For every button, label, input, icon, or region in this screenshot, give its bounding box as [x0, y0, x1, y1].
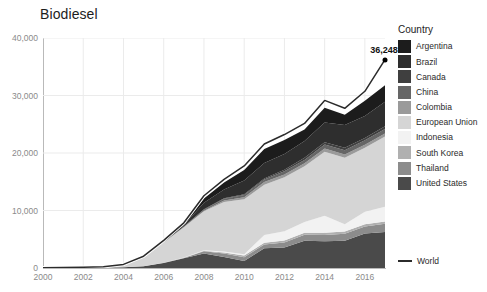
legend-item[interactable]: Thailand: [398, 161, 487, 176]
stacked-area-svg: [43, 38, 385, 268]
y-tick-label: 40,000: [12, 33, 38, 43]
legend-swatch-icon: [398, 116, 411, 129]
y-tick-label: 10,000: [12, 206, 38, 216]
legend-world-item[interactable]: World: [398, 256, 439, 266]
world-line-icon: [398, 260, 412, 262]
y-axis-labels: 010,00020,00030,00040,000: [0, 0, 38, 292]
legend-item[interactable]: Argentina: [398, 39, 487, 54]
x-tick-label: 2016: [355, 272, 374, 282]
legend-world-label: World: [417, 256, 439, 266]
legend-item[interactable]: Brazil: [398, 54, 487, 69]
x-tick-label: 2004: [114, 272, 133, 282]
legend-title: Country: [398, 24, 487, 35]
legend-swatch-icon: [398, 131, 411, 144]
legend-item-label: South Korea: [416, 149, 463, 158]
legend-items: ArgentinaBrazilCanadaChinaColombiaEurope…: [398, 39, 487, 191]
legend-item-label: Colombia: [416, 103, 452, 112]
legend-swatch-icon: [398, 55, 411, 68]
x-tick-label: 2014: [315, 272, 334, 282]
legend-swatch-icon: [398, 101, 411, 114]
legend-item-label: European Union: [416, 118, 477, 127]
chart-root: Biodiesel 010,00020,00030,00040,000 2000…: [0, 0, 487, 292]
legend-swatch-icon: [398, 40, 411, 53]
x-axis-line: [43, 268, 386, 269]
legend-item-label: China: [416, 88, 438, 97]
legend-item-label: Argentina: [416, 42, 452, 51]
x-tick-label: 2010: [235, 272, 254, 282]
y-tick-label: 30,000: [12, 91, 38, 101]
x-tick-label: 2006: [154, 272, 173, 282]
x-tick-label: 2000: [34, 272, 53, 282]
legend-swatch-icon: [398, 177, 411, 190]
legend-item[interactable]: Colombia: [398, 100, 487, 115]
legend: Country ArgentinaBrazilCanadaChinaColomb…: [398, 24, 487, 191]
legend-item[interactable]: Canada: [398, 69, 487, 84]
x-tick-label: 2012: [275, 272, 294, 282]
x-tick-label: 2008: [194, 272, 213, 282]
legend-item[interactable]: South Korea: [398, 145, 487, 160]
legend-item[interactable]: European Union: [398, 115, 487, 130]
legend-item-label: Canada: [416, 73, 446, 82]
legend-item[interactable]: Indonesia: [398, 130, 487, 145]
legend-swatch-icon: [398, 162, 411, 175]
data-annotation-label: 36,248: [370, 45, 398, 55]
plot-area: [43, 38, 385, 268]
x-tick-label: 2002: [74, 272, 93, 282]
legend-item-label: Indonesia: [416, 133, 453, 142]
legend-swatch-icon: [398, 86, 411, 99]
page-title: Biodiesel: [40, 6, 98, 22]
legend-item-label: Brazil: [416, 58, 437, 67]
legend-item-label: Thailand: [416, 164, 449, 173]
legend-swatch-icon: [398, 146, 411, 159]
y-tick-label: 20,000: [12, 148, 38, 158]
legend-item-label: United States: [416, 179, 467, 188]
data-annotation-marker: [383, 57, 388, 62]
legend-item[interactable]: United States: [398, 176, 487, 191]
legend-item[interactable]: China: [398, 85, 487, 100]
legend-swatch-icon: [398, 70, 411, 83]
